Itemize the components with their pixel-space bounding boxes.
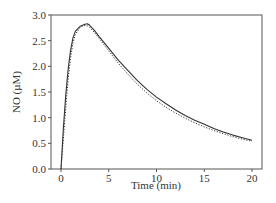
line-chart: 0.00.51.01.52.02.53.0 05101520 Time (min… <box>0 0 276 203</box>
plot-frame <box>51 15 262 169</box>
y-tick-label: 3.0 <box>32 9 46 21</box>
x-tick-label: 15 <box>199 172 211 184</box>
x-tick-label: 5 <box>106 172 112 184</box>
plot-border <box>51 15 262 169</box>
y-tick-label: 2.5 <box>32 35 46 47</box>
series-group <box>61 24 252 169</box>
series-measured <box>61 24 252 169</box>
y-axis-title: NO (µM) <box>10 71 23 113</box>
y-tick-label: 1.5 <box>32 86 46 98</box>
y-tick-label: 1.0 <box>32 112 46 124</box>
y-tick-label: 2.0 <box>32 60 46 72</box>
x-tick-label: 20 <box>247 172 259 184</box>
x-axis-title: Time (min) <box>131 179 181 192</box>
y-tick-label: 0.0 <box>32 163 46 175</box>
x-tick-label: 0 <box>58 172 64 184</box>
y-axis: 0.00.51.01.52.02.53.0 <box>32 9 51 175</box>
y-tick-label: 0.5 <box>32 137 46 149</box>
